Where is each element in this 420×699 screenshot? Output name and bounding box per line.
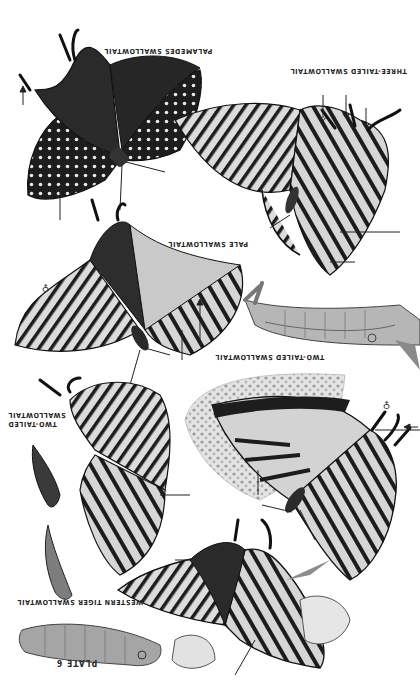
three-tailed-swallowtail [175,95,400,275]
label-two-tailed-swallowtail-larva: TWO-TAILED SWALLOWTAIL [215,353,324,361]
female-symbol-icon: ♀ [383,400,390,411]
label-pale-swallowtail: PALE SWALLOWTAIL [168,240,248,248]
two-tailed-swallowtail-pupa [32,445,72,599]
label-palamedes-swallowtail: PALAMEDES SWALLOWTAIL [104,47,212,55]
palamedes-swallowtail [20,30,201,210]
label-western-tiger-swallowtail: WESTERN TIGER SWALLOWTAIL [17,598,143,606]
two-tailed-swallowtail-left-adult [40,378,190,575]
label-two-tailed-swallowtail-pupae: TWO-TAILED SWALLOWTAIL [8,410,66,428]
plate-illustrations [0,0,420,699]
plate-number: PLATE 6 [56,658,97,668]
field-guide-plate: PALAMEDES SWALLOWTAIL THREE-TAILED SWALL… [0,0,420,699]
female-symbol-icon: ♀ [42,283,49,294]
label-three-tailed-swallowtail: THREE-TAILED SWALLOWTAIL [290,67,407,75]
